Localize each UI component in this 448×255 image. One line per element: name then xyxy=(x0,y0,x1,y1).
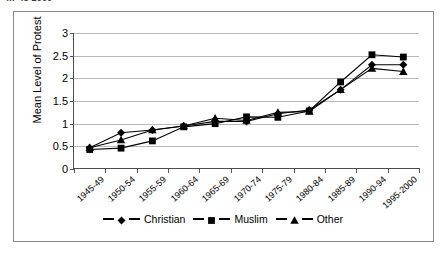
x-tick-label: 1980-84 xyxy=(295,175,326,204)
x-tick-mark xyxy=(74,169,75,173)
x-tick-label: 1965-69 xyxy=(201,175,232,204)
legend-line-segment xyxy=(193,218,204,220)
x-tick-label: 1955-59 xyxy=(138,175,169,204)
x-tick-mark xyxy=(388,169,389,173)
series-lines xyxy=(74,33,419,169)
data-point-muslim xyxy=(369,51,376,58)
x-tick-mark xyxy=(262,169,263,173)
chart-frame: Mean Level of Protest 00.511.522.53 1945… xyxy=(13,11,434,242)
x-tick-label: 1975-79 xyxy=(263,175,294,204)
y-tick-label: 3 xyxy=(62,28,68,39)
x-tick-mark xyxy=(168,169,169,173)
cut-off-caption: …-45 2000 xyxy=(6,0,52,3)
x-tick-mark xyxy=(294,169,295,173)
series-line-other xyxy=(90,68,404,147)
x-tick-mark xyxy=(199,169,200,173)
legend-item-other[interactable]: Other xyxy=(276,213,344,225)
legend-item-muslim[interactable]: Muslim xyxy=(193,213,268,225)
legend-label: Muslim xyxy=(233,213,268,225)
legend-label: Other xyxy=(316,213,344,225)
x-tick-mark xyxy=(356,169,357,173)
data-point-muslim xyxy=(118,145,125,152)
x-tick-label: 1945-49 xyxy=(75,175,106,204)
x-tick-label: 1970-74 xyxy=(232,175,263,204)
legend-marker-diamond-icon xyxy=(117,215,126,224)
legend-item-christian[interactable]: Christian xyxy=(103,213,186,225)
y-tick-label: 1 xyxy=(62,118,68,129)
y-tick-label: 2 xyxy=(62,73,68,84)
y-axis-title: Mean Level of Protest xyxy=(31,0,43,140)
y-tick-label: 2.5 xyxy=(53,50,68,61)
y-tick-label: 0 xyxy=(62,164,68,175)
legend-line-segment xyxy=(103,218,114,220)
x-tick-label: 1950-54 xyxy=(106,175,137,204)
legend-line-segment xyxy=(129,218,140,220)
plot-area: 00.511.522.53 1945-491950-541955-591960-… xyxy=(74,33,419,169)
legend-line-segment xyxy=(219,218,230,220)
y-tick-label: 0.5 xyxy=(53,141,68,152)
y-tick-label: 1.5 xyxy=(53,96,68,107)
legend-line-segment xyxy=(276,218,287,220)
legend-marker-triangle-icon xyxy=(290,215,299,224)
data-point-muslim xyxy=(149,137,156,144)
legend-marker-square-icon xyxy=(207,215,216,224)
legend-label: Christian xyxy=(143,213,186,225)
legend-line-segment xyxy=(302,218,313,220)
data-point-muslim xyxy=(400,54,407,61)
x-tick-label: 1985-89 xyxy=(326,175,357,204)
x-tick-mark xyxy=(137,169,138,173)
x-tick-mark xyxy=(105,169,106,173)
data-point-other xyxy=(211,114,219,122)
data-point-muslim xyxy=(337,79,344,86)
x-tick-mark xyxy=(231,169,232,173)
data-point-christian xyxy=(117,129,125,137)
x-tick-label: 1960-64 xyxy=(169,175,200,204)
x-tick-mark xyxy=(325,169,326,173)
x-tick-mark xyxy=(419,169,420,173)
chart-legend: ChristianMuslimOther xyxy=(14,213,433,225)
